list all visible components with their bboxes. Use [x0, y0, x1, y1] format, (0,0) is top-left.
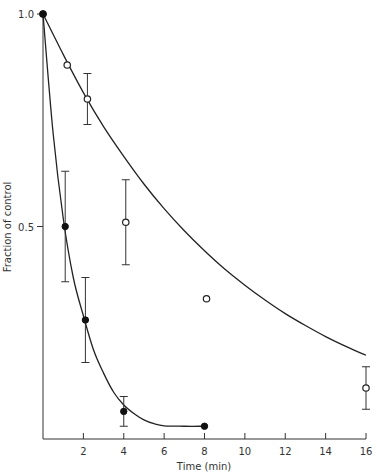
- axes: 2468101214160.51.0: [18, 9, 372, 457]
- fit-curve: [43, 14, 366, 355]
- error-bars: [61, 74, 370, 427]
- x-tick-label: 2: [80, 446, 86, 457]
- filled-circle-marker: [40, 11, 46, 17]
- y-axis-title: Fraction of control: [2, 182, 13, 273]
- filled-circle-marker: [201, 423, 207, 429]
- fit-curves: [43, 14, 366, 426]
- x-tick-label: 8: [201, 446, 207, 457]
- chart: 2468101214160.51.0 Time (min) Fraction o…: [0, 0, 377, 475]
- open-circle-marker: [64, 62, 70, 68]
- filled-circle-marker: [121, 408, 127, 414]
- x-tick-label: 16: [360, 446, 373, 457]
- x-axis-title: Time (min): [176, 461, 231, 472]
- open-circle-marker: [84, 96, 90, 102]
- x-tick-label: 14: [319, 446, 332, 457]
- x-tick-label: 4: [121, 446, 127, 457]
- x-tick-label: 10: [239, 446, 252, 457]
- y-tick-label: 0.5: [18, 222, 34, 233]
- filled-circle-marker: [62, 223, 68, 229]
- y-tick-label: 1.0: [18, 9, 34, 20]
- open-circle-marker: [203, 296, 209, 302]
- open-circle-marker: [123, 219, 129, 225]
- x-tick-label: 6: [161, 446, 167, 457]
- open-circle-marker: [363, 385, 369, 391]
- filled-circle-marker: [82, 317, 88, 323]
- x-tick-label: 12: [279, 446, 292, 457]
